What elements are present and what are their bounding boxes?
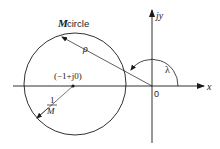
one-over-m-denominator: M [46, 106, 55, 116]
x-axis-label: x [206, 81, 212, 92]
rho-label: ρ [82, 43, 88, 54]
lambda-label: λ [165, 64, 170, 75]
m-circle [24, 33, 126, 135]
m-circle-diagram: M circle ρ (−1+j0) 1 M 0 x jy λ [0, 0, 220, 149]
lambda-arc [131, 59, 178, 86]
one-over-m-numerator: 1 [50, 95, 55, 105]
y-axis-label: jy [154, 10, 164, 21]
m-circle-label-rest: circle [67, 18, 89, 29]
center-label: (−1+j0) [54, 71, 82, 81]
origin-label: 0 [154, 89, 159, 99]
